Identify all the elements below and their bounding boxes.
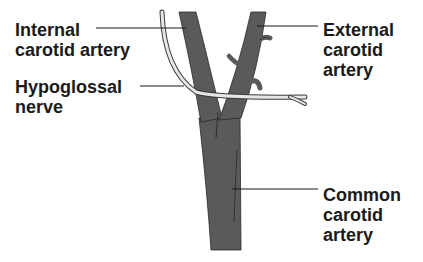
label-line: carotid bbox=[323, 40, 394, 60]
label-external-carotid-artery: External carotid artery bbox=[323, 20, 394, 80]
common-carotid-artery bbox=[199, 112, 241, 250]
label-line: artery bbox=[323, 225, 401, 245]
label-common-carotid-artery: Common carotid artery bbox=[323, 185, 401, 245]
label-line: carotid bbox=[323, 205, 401, 225]
label-line: nerve bbox=[15, 97, 122, 117]
label-line: External bbox=[323, 20, 394, 40]
label-hypoglossal-nerve: Hypoglossal nerve bbox=[15, 77, 122, 117]
label-line: Hypoglossal bbox=[15, 77, 122, 97]
label-line: carotid artery bbox=[15, 40, 130, 60]
label-line: Common bbox=[323, 185, 401, 205]
label-line: artery bbox=[323, 60, 394, 80]
label-line: Internal bbox=[15, 20, 130, 40]
label-internal-carotid-artery: Internal carotid artery bbox=[15, 20, 130, 60]
